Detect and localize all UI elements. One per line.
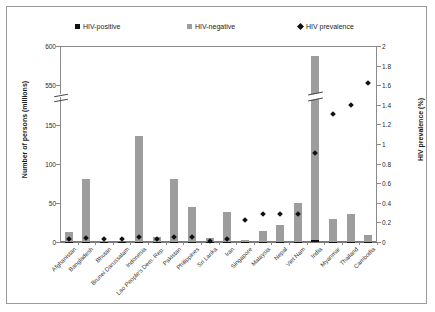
y-right-tick-0: 0 <box>382 239 404 246</box>
bar-hiv-positive <box>311 240 319 242</box>
y-axis-break-mark <box>54 93 67 102</box>
y-left-tick-150: 150 <box>36 122 56 129</box>
x-tickmark <box>130 242 131 245</box>
y-right-tickmark-1.2 <box>377 124 381 125</box>
y-right-tick-1.4: 1.4 <box>382 101 404 108</box>
bar-hiv-positive <box>82 242 90 243</box>
legend-swatch-diamond-black <box>297 23 304 30</box>
x-tickmark <box>377 242 378 245</box>
bar-hiv-negative <box>170 179 178 241</box>
y-right-tickmark-1.4 <box>377 105 381 106</box>
bar-hiv-negative <box>329 219 337 242</box>
bar-hiv-positive <box>135 242 143 243</box>
y-right-tickmark-1 <box>377 144 381 145</box>
y-left-tick-100: 100 <box>36 161 56 168</box>
y-axis-right-title: HIV prevalence (%) <box>417 70 424 190</box>
y-right-tick-2: 2 <box>382 43 404 50</box>
x-tickmark <box>342 242 343 245</box>
y-right-tickmark-0.6 <box>377 183 381 184</box>
y-right-tick-0.2: 0.2 <box>382 219 404 226</box>
y-left-tick-50: 50 <box>36 200 56 207</box>
y-axis-left-title: Number of persons (millions) <box>21 70 28 190</box>
bar-hiv-positive <box>188 242 196 243</box>
legend-item-hiv-negative: HIV-negative <box>187 23 235 30</box>
bar-hiv-positive <box>364 242 372 243</box>
y-right-tickmark-1.6 <box>377 85 381 86</box>
chart-legend: HIV-positive HIV-negative HIV prevalence <box>0 22 435 38</box>
bar-hiv-positive <box>223 242 231 243</box>
y-right-tickmark-1.8 <box>377 66 381 67</box>
y-right-tick-1: 1 <box>382 141 404 148</box>
bar-hiv-positive <box>294 242 302 243</box>
y-left-tick-0: 0 <box>36 239 56 246</box>
y-right-tickmark-0.2 <box>377 222 381 223</box>
bar-break-mark-india <box>308 92 322 102</box>
x-tickmark <box>183 242 184 245</box>
x-tickmark <box>95 242 96 245</box>
plot-area <box>60 46 377 242</box>
bar-hiv-positive <box>259 242 267 243</box>
bar-hiv-negative <box>364 235 372 242</box>
legend-swatch-square-grey <box>187 24 192 29</box>
x-tickmark <box>359 242 360 245</box>
bar-hiv-positive <box>329 242 337 243</box>
bar-hiv-positive <box>170 242 178 243</box>
y-right-tick-0.8: 0.8 <box>382 160 404 167</box>
chart-screenshot: HIV-positive HIV-negative HIV prevalence… <box>0 0 435 312</box>
bar-hiv-negative <box>82 179 90 241</box>
x-tickmark <box>307 242 308 245</box>
y-right-tickmark-0.8 <box>377 164 381 165</box>
x-tickmark <box>324 242 325 245</box>
bar-hiv-positive <box>65 242 73 243</box>
bar-hiv-positive <box>100 242 108 243</box>
legend-item-hiv-positive: HIV-positive <box>75 23 120 30</box>
bar-hiv-positive <box>276 242 284 243</box>
bar-hiv-negative <box>347 214 355 241</box>
bar-hiv-positive <box>153 242 161 243</box>
y-right-tick-0.6: 0.6 <box>382 180 404 187</box>
bar-hiv-negative <box>135 136 143 241</box>
y-right-tickmark-0.4 <box>377 203 381 204</box>
y-right-tick-1.8: 1.8 <box>382 62 404 69</box>
plot-inner <box>61 47 376 241</box>
legend-label-hiv-positive: HIV-positive <box>83 23 120 30</box>
legend-label-hiv-prevalence: HIV prevalence <box>306 23 354 30</box>
y-right-tick-0.4: 0.4 <box>382 199 404 206</box>
bar-hiv-positive <box>347 242 355 243</box>
x-tickmark <box>271 242 272 245</box>
bar-hiv-negative <box>294 203 302 242</box>
x-tickmark <box>201 242 202 245</box>
x-tickmark <box>254 242 255 245</box>
bar-hiv-negative <box>311 56 319 240</box>
x-tickmark <box>289 242 290 245</box>
x-tickmark <box>219 242 220 245</box>
y-left-tick-600: 600 <box>36 43 56 50</box>
y-right-tick-1.2: 1.2 <box>382 121 404 128</box>
y-left-tick-550: 550 <box>36 82 56 89</box>
x-tickmark <box>148 242 149 245</box>
x-tickmark <box>78 242 79 245</box>
x-tickmark <box>236 242 237 245</box>
x-tickmark <box>166 242 167 245</box>
legend-item-hiv-prevalence: HIV prevalence <box>298 23 354 30</box>
legend-swatch-square-black <box>75 24 80 29</box>
y-right-tick-1.6: 1.6 <box>382 82 404 89</box>
x-tickmark <box>113 242 114 245</box>
bar-hiv-negative <box>259 231 267 242</box>
bar-hiv-negative <box>276 225 284 242</box>
y-right-tickmark-2 <box>377 46 381 47</box>
legend-label-hiv-negative: HIV-negative <box>195 23 235 30</box>
bar-hiv-positive <box>241 242 249 243</box>
